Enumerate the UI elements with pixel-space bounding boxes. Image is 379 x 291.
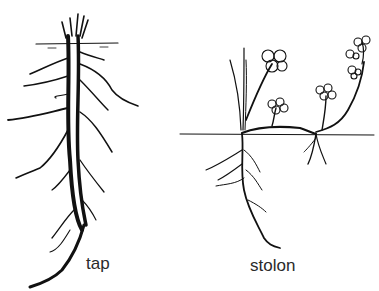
tap-root-label: tap [86,254,110,274]
stolon-drawing [180,36,374,248]
root-types-diagram: tap stolon [0,0,379,291]
tap-root-drawing [8,14,138,287]
stolon-label: stolon [250,256,295,276]
line-drawing [0,0,379,291]
